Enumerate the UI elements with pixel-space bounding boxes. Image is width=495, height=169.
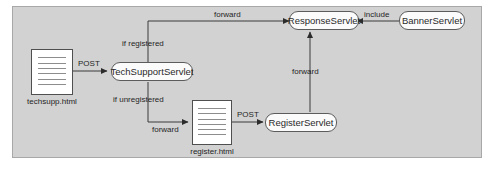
- node-response-servlet[interactable]: ResponseServlet: [289, 11, 359, 30]
- document-icon: [31, 49, 73, 95]
- edge-label-post-bottom: POST: [237, 111, 259, 119]
- node-register-servlet[interactable]: RegisterServlet: [265, 113, 337, 132]
- edge-label-include: include: [364, 11, 389, 19]
- edge-label-forward-top: forward: [214, 11, 241, 19]
- edge-forward-to-response: [148, 21, 289, 62]
- edge-label-forward-bottom-left: forward: [152, 126, 179, 134]
- document-icon: [192, 100, 232, 145]
- node-label-tech-support-servlet: TechSupportServlet: [111, 67, 194, 77]
- node-techsupp-html[interactable]: techsupp.html: [31, 49, 73, 95]
- node-label-register-html: register.html: [190, 148, 234, 156]
- edge-label-if-registered: if registered: [122, 40, 164, 48]
- node-label-techsupp-html: techsupp.html: [27, 98, 77, 106]
- edge-label-if-unregistered: if unregistered: [113, 96, 164, 104]
- diagram-canvas: techsupp.html TechSupportServlet Respons…: [0, 0, 495, 169]
- node-label-register-servlet: RegisterServlet: [269, 118, 334, 128]
- node-label-banner-servlet: BannerServlet: [402, 16, 462, 26]
- node-banner-servlet[interactable]: BannerServlet: [399, 11, 465, 30]
- edge-label-forward-vertical: forward: [292, 68, 319, 76]
- node-label-response-servlet: ResponseServlet: [288, 16, 360, 26]
- edge-label-post-top: POST: [78, 60, 100, 68]
- node-register-html[interactable]: register.html: [192, 100, 232, 145]
- node-tech-support-servlet[interactable]: TechSupportServlet: [111, 62, 193, 81]
